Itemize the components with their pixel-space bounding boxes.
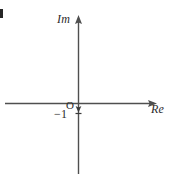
complex-plane-figure: Im Re O −1 [0, 0, 169, 174]
axes-svg [0, 0, 169, 174]
imaginary-axis-group [75, 15, 82, 174]
real-axis-group [5, 100, 157, 107]
real-axis-label: Re [151, 103, 164, 115]
minus-one-label: −1 [54, 108, 67, 120]
imaginary-axis-label: Im [57, 13, 70, 25]
scan-edge-mark [0, 9, 3, 18]
